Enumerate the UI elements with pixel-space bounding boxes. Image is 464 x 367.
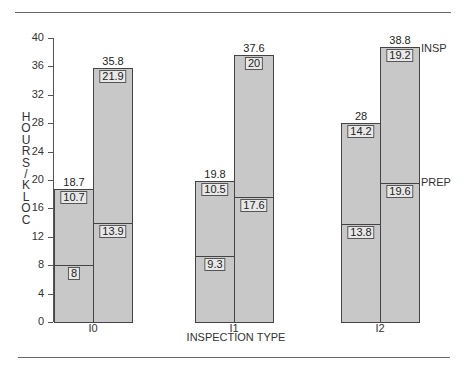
y-tick-label: 0 xyxy=(16,316,44,327)
y-tick xyxy=(48,180,53,181)
insp-value-label: 14.2 xyxy=(347,125,374,138)
y-tick xyxy=(48,294,53,295)
prep-value-label: 13.8 xyxy=(347,226,374,239)
prep-insp-divider xyxy=(380,183,420,184)
y-tick xyxy=(48,237,53,238)
legend-insp: INSP xyxy=(421,43,447,54)
insp-value-label: 10.7 xyxy=(60,191,87,204)
insp-value-label: 19.2 xyxy=(386,49,413,62)
x-category-label: I2 xyxy=(375,323,384,334)
prep-value-label: 19.6 xyxy=(386,185,413,198)
bar-total-label: 35.8 xyxy=(102,56,123,67)
prep-value-label: 9.3 xyxy=(204,258,225,271)
y-tick xyxy=(48,265,53,266)
bar-total-label: 28 xyxy=(355,111,367,122)
bar-total-label: 37.6 xyxy=(243,43,264,54)
y-tick xyxy=(48,66,53,67)
prep-value-label: 13.9 xyxy=(99,225,126,238)
legend-prep: PREP xyxy=(421,177,451,188)
prep-value-label: 8 xyxy=(68,267,80,280)
y-axis-title-letter: C xyxy=(20,215,32,226)
bar-i1-2 xyxy=(234,55,274,323)
y-tick xyxy=(48,208,53,209)
bar-i1-1 xyxy=(195,181,235,323)
y-axis-title: HOURS/KLOC xyxy=(20,112,32,226)
x-axis-title: INSPECTION TYPE xyxy=(187,331,286,343)
y-tick-label: 32 xyxy=(16,89,44,100)
y-tick xyxy=(48,95,53,96)
prep-insp-divider xyxy=(341,224,381,225)
top-rule xyxy=(15,12,451,13)
prep-value-label: 17.6 xyxy=(240,199,267,212)
y-tick-label: 8 xyxy=(16,259,44,270)
y-tick xyxy=(48,123,53,124)
insp-value-label: 20 xyxy=(245,57,263,70)
bar-i0-2 xyxy=(93,68,133,323)
y-tick xyxy=(48,322,53,323)
y-tick xyxy=(48,38,53,39)
y-tick xyxy=(48,152,53,153)
bar-total-label: 18.7 xyxy=(63,177,84,188)
prep-insp-divider xyxy=(234,197,274,198)
prep-insp-divider xyxy=(195,256,235,257)
y-tick-label: 4 xyxy=(16,288,44,299)
bar-total-label: 19.8 xyxy=(204,169,225,180)
y-tick-label: 12 xyxy=(16,231,44,242)
insp-value-label: 10.5 xyxy=(201,183,228,196)
y-tick-label: 40 xyxy=(16,32,44,43)
bar-total-label: 38.8 xyxy=(389,35,410,46)
bottom-rule xyxy=(18,357,450,358)
y-tick-label: 36 xyxy=(16,60,44,71)
bar-i0-1 xyxy=(54,189,94,323)
x-category-label: I0 xyxy=(88,323,97,334)
prep-insp-divider xyxy=(54,265,94,266)
prep-insp-divider xyxy=(93,223,133,224)
insp-value-label: 21.9 xyxy=(99,70,126,83)
